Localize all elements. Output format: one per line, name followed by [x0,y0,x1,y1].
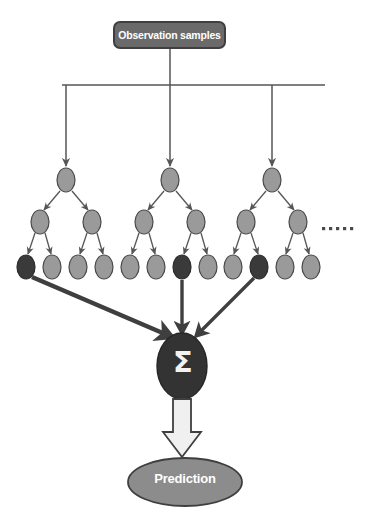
diagram-canvas: Observation samples Σ Prediction [0,0,370,523]
sum-aggregator-node [157,333,207,399]
tree-2-root-node [161,168,179,192]
tree-3-root-node [263,168,281,192]
tree-1-internal-node-left [31,210,49,234]
tree-1-leaf-node [69,255,87,279]
prediction-block-arrow [163,399,201,457]
tree-1-leaf-node-selected [17,255,35,279]
aggregation-arrow-from-tree-3 [196,278,254,336]
diagram-vector-layer [0,0,370,523]
tree-1-internal-node-right [83,210,101,234]
tree-1-nodes [17,168,113,279]
tree-2-leaf-node-selected [173,255,191,279]
tree-3-internal-node-left [237,210,255,234]
observation-samples-box[interactable]: Observation samples [113,21,226,49]
aggregation-arrow-from-tree-1 [32,277,172,337]
tree-2-leaf-node [199,255,217,279]
tree-2-nodes [121,168,217,279]
tree-3-leaf-node [276,255,294,279]
more-trees-ellipsis [322,227,353,230]
tree-3-leaf-node-selected [250,255,268,279]
tree-3-leaf-node [302,255,320,279]
tree-3-internal-node-right [289,210,307,234]
observation-samples-label: Observation samples [118,29,220,41]
tree-2-internal-node-right [187,210,205,234]
tree-1-root-node [57,168,75,192]
tree-1-leaf-node [95,255,113,279]
tree-2-leaf-node [121,255,139,279]
tree-2-internal-node-left [135,210,153,234]
tree-2-leaf-node [147,255,165,279]
prediction-node [128,458,242,506]
tree-1-leaf-node [43,255,61,279]
tree-3-leaf-node [224,255,242,279]
tree-3-nodes [224,168,320,279]
